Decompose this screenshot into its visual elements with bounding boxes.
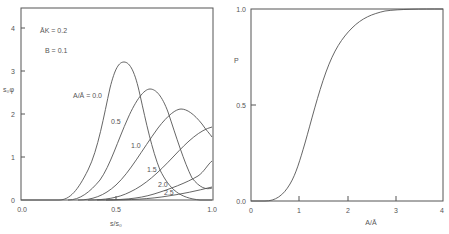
left-plot-frame bbox=[21, 8, 213, 200]
curve-a-0.0 bbox=[21, 62, 212, 200]
left-ytick-label: 1 bbox=[11, 154, 15, 161]
cdf-curve bbox=[251, 9, 443, 201]
right-xtick-label: 0 bbox=[249, 207, 253, 214]
right-ytick-label: 1.0 bbox=[236, 6, 246, 13]
left-plot: 0 1 2 3 4 0.0 0.5 1.0 s/s₀ s₀φ ĀK = 0.2 … bbox=[3, 8, 217, 227]
curve-a-1.0 bbox=[78, 109, 212, 200]
left-ytick-label: 3 bbox=[11, 68, 15, 75]
right-xtick-label: 4 bbox=[440, 207, 444, 214]
right-xtick-label: 1 bbox=[297, 207, 301, 214]
left-ytick-label: 0 bbox=[11, 197, 15, 204]
left-ytick-label: 4 bbox=[11, 25, 15, 32]
right-plot: 0.0 0.5 1.0 0 1 2 3 4 A/Ā P bbox=[234, 6, 444, 226]
left-x-axis-label: s/s₀ bbox=[110, 220, 122, 227]
curve-label-2.0: 2.0 bbox=[158, 181, 168, 188]
annotation-b: B = 0.1 bbox=[45, 47, 67, 54]
right-ytick-label: 0.0 bbox=[236, 198, 246, 205]
left-xtick-label: 0.5 bbox=[111, 206, 121, 213]
curve-a-2.5 bbox=[106, 187, 212, 200]
left-xtick-label: 1.0 bbox=[207, 206, 217, 213]
right-xtick-label: 2 bbox=[346, 207, 350, 214]
curve-label-1.0: 1.0 bbox=[131, 142, 141, 149]
left-y-axis-label: s₀φ bbox=[3, 86, 14, 94]
right-xtick-label: 3 bbox=[394, 207, 398, 214]
curve-label-1.5: 1.5 bbox=[147, 166, 157, 173]
right-x-axis-label: A/Ā bbox=[365, 219, 377, 226]
right-y-axis-label: P bbox=[234, 57, 239, 64]
left-ytick-label: 2 bbox=[11, 111, 15, 118]
curve-label-0.5: 0.5 bbox=[111, 118, 121, 125]
left-xtick-label: 0.0 bbox=[17, 206, 27, 213]
curve-label-2.5: 2.5 bbox=[164, 189, 174, 196]
curve-label-0.0: A/Ā = 0.0 bbox=[73, 92, 102, 99]
figure: 0 1 2 3 4 0.0 0.5 1.0 s/s₀ s₀φ ĀK = 0.2 … bbox=[0, 0, 449, 234]
right-plot-frame bbox=[251, 9, 443, 201]
right-ytick-label: 0.5 bbox=[236, 102, 246, 109]
annotation-ak: ĀK = 0.2 bbox=[40, 27, 67, 34]
